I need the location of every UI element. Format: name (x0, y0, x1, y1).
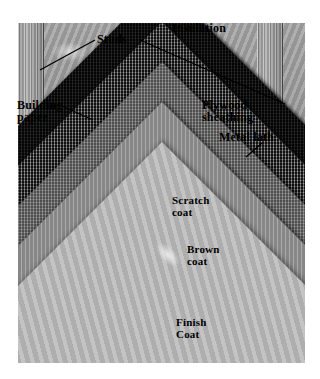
figure-stucco-wall-assembly: Studs Insulation Buildingpaper Plywoodsh… (0, 0, 320, 379)
label-building-paper-line2: paper (17, 110, 48, 124)
label-building-paper: Buildingpaper (17, 99, 63, 123)
label-brown-coat-line1: Brown (187, 243, 220, 255)
label-plywood-sheathing-line2: sheathing (202, 110, 253, 124)
label-studs-line1: Studs (97, 32, 127, 46)
label-scratch-coat: Scratchcoat (172, 194, 209, 218)
layer-finish-coat (18, 229, 305, 363)
label-studs: Studs (97, 33, 127, 45)
label-insulation-line1: Insulation (172, 21, 226, 35)
label-metal-lath-line1: Metal lath (219, 130, 274, 144)
label-metal-lath: Metal lath (219, 131, 274, 143)
label-plywood-sheathing: Plywoodsheathing (202, 99, 253, 123)
label-brown-coat: Browncoat (187, 243, 220, 267)
label-scratch-coat-line2: coat (172, 206, 192, 218)
label-brown-coat-line2: coat (187, 255, 207, 267)
assembly-photograph (18, 23, 305, 363)
label-insulation: Insulation (172, 22, 226, 34)
label-finish-coat: FinishCoat (176, 316, 207, 340)
label-finish-coat-line1: Finish (176, 316, 207, 328)
label-scratch-coat-line1: Scratch (172, 194, 209, 206)
label-finish-coat-line2: Coat (176, 328, 199, 340)
